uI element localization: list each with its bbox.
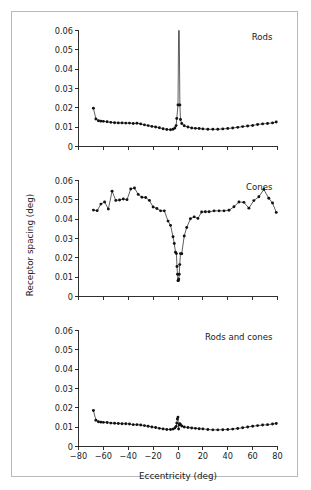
- data-point: [206, 128, 209, 131]
- data-point: [187, 126, 190, 129]
- data-point: [223, 209, 226, 212]
- data-point: [271, 201, 274, 204]
- data-point: [247, 207, 250, 210]
- data-point: [246, 125, 249, 128]
- y-tick-label: 0.03: [55, 234, 73, 244]
- data-point: [122, 198, 125, 201]
- data-point: [139, 122, 142, 125]
- panel-title: Rods: [252, 32, 273, 42]
- y-tick-label: 0.04: [55, 64, 73, 74]
- data-point: [113, 422, 116, 425]
- data-point: [113, 121, 116, 124]
- data-point: [152, 206, 155, 209]
- data-point: [177, 416, 180, 419]
- y-tick-label: 0.03: [55, 84, 73, 94]
- x-tick-label: 40: [223, 451, 233, 461]
- data-point: [147, 425, 150, 428]
- panel-rods-and-cones: 00.010.020.030.040.050.06−80−60−40−20020…: [55, 326, 283, 481]
- data-point: [226, 428, 229, 431]
- data-point: [132, 423, 135, 426]
- y-tick-label: 0.01: [55, 272, 73, 282]
- data-point: [139, 424, 142, 427]
- data-point: [150, 125, 153, 128]
- data-point: [132, 122, 135, 125]
- data-point: [213, 209, 216, 212]
- data-point: [236, 126, 239, 129]
- data-point: [162, 427, 165, 430]
- data-point: [231, 428, 234, 431]
- data-point: [159, 209, 162, 212]
- data-point: [256, 424, 259, 427]
- data-point: [216, 428, 219, 431]
- data-point: [177, 428, 180, 431]
- data-point: [136, 423, 139, 426]
- x-tick-label: 80: [272, 451, 282, 461]
- data-point: [99, 120, 102, 123]
- y-tick-label: 0.05: [55, 195, 73, 205]
- y-tick-label: 0.04: [55, 364, 73, 374]
- panel-rods: 00.010.020.030.040.050.06Rods: [55, 26, 278, 152]
- data-point: [103, 201, 106, 204]
- data-point: [185, 226, 188, 229]
- data-point: [193, 215, 196, 218]
- y-tick-label: 0.01: [55, 122, 73, 132]
- y-tick-label: 0.03: [55, 384, 73, 394]
- data-point: [241, 426, 244, 429]
- receptor-spacing-figure: 00.010.020.030.040.050.06Rods00.010.020.…: [0, 0, 311, 490]
- data-point: [106, 421, 109, 424]
- data-point: [251, 425, 254, 428]
- data-point: [144, 196, 147, 199]
- data-point: [148, 199, 151, 202]
- data-point: [177, 278, 180, 281]
- data-point: [136, 122, 139, 125]
- data-point: [201, 127, 204, 130]
- data-point: [180, 425, 183, 428]
- data-point: [167, 220, 170, 223]
- data-point: [266, 122, 269, 125]
- data-point: [233, 205, 236, 208]
- data-point: [109, 422, 112, 425]
- y-tick-label: 0: [68, 442, 73, 452]
- y-tick-label: 0.06: [55, 326, 73, 336]
- data-point: [133, 187, 136, 190]
- data-point: [275, 211, 278, 214]
- data-point: [162, 127, 165, 130]
- data-point: [231, 126, 234, 129]
- data-point: [129, 188, 132, 191]
- data-point: [178, 273, 181, 276]
- data-point: [206, 428, 209, 431]
- data-point: [117, 422, 120, 425]
- data-point: [97, 420, 100, 423]
- data-point: [154, 126, 157, 129]
- data-point: [111, 190, 114, 193]
- data-point: [163, 209, 166, 212]
- x-axis-title: Eccentricity (deg): [139, 471, 217, 481]
- y-tick-label: 0.06: [55, 26, 73, 36]
- data-point: [236, 427, 239, 430]
- data-point: [121, 422, 124, 425]
- y-tick-label: 0.02: [55, 403, 73, 413]
- y-tick-label: 0.06: [55, 176, 73, 186]
- data-point: [92, 107, 95, 110]
- data-point: [267, 197, 270, 200]
- data-point: [180, 122, 183, 125]
- data-point: [150, 426, 153, 429]
- data-point: [261, 122, 264, 125]
- data-point: [211, 428, 214, 431]
- data-point: [251, 124, 254, 127]
- data-line: [93, 188, 276, 281]
- data-point: [137, 193, 140, 196]
- data-point: [147, 124, 150, 127]
- data-point: [275, 422, 278, 425]
- data-point: [109, 121, 112, 124]
- data-point: [154, 426, 157, 429]
- data-point: [158, 126, 161, 129]
- data-point: [194, 127, 197, 130]
- data-point: [204, 210, 207, 213]
- data-point: [256, 123, 259, 126]
- y-tick-label: 0.04: [55, 214, 73, 224]
- data-point: [128, 122, 131, 125]
- data-point: [96, 209, 99, 212]
- data-point: [198, 127, 201, 130]
- y-tick-label: 0: [68, 292, 73, 302]
